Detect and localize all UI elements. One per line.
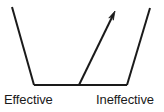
axis-label-row: Effective Ineffective — [0, 92, 164, 112]
left-wall-line — [12, 7, 34, 85]
label-effective: Effective — [4, 92, 53, 108]
upward-arrow-shaft — [79, 15, 113, 85]
right-wall-line — [127, 8, 150, 85]
diagram-strokes — [12, 7, 150, 85]
diagram-container: Effective Ineffective — [0, 0, 164, 112]
label-ineffective: Ineffective — [96, 92, 154, 108]
